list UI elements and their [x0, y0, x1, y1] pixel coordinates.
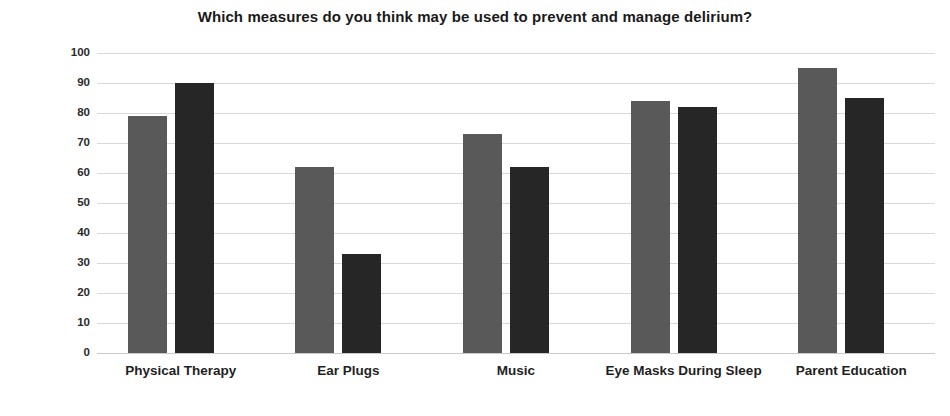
- y-tick-label-70: 70: [40, 137, 90, 149]
- bar-series-a-4: [798, 68, 837, 353]
- bar-group: [600, 53, 768, 353]
- category-label: Parent Education: [767, 362, 935, 379]
- y-tick-label-40: 40: [40, 227, 90, 239]
- category-label: Eye Masks During Sleep: [600, 362, 768, 379]
- bar-group: [767, 53, 935, 353]
- bar-group: [432, 53, 600, 353]
- y-tick-label-60: 60: [40, 167, 90, 179]
- category-label: Ear Plugs: [265, 362, 433, 379]
- y-axis: 1009080706050403020100: [40, 53, 90, 353]
- y-tick-label-100: 100: [40, 47, 90, 59]
- y-tick-label-90: 90: [40, 77, 90, 89]
- bar-series-b-4: [845, 98, 884, 353]
- gridline-0: [97, 353, 935, 354]
- bar-series-a-1: [295, 167, 334, 353]
- y-tick-label-10: 10: [40, 317, 90, 329]
- bar-chart: Which measures do you think may be used …: [0, 0, 950, 416]
- bar-series-b-0: [175, 83, 214, 353]
- bar-series-b-3: [678, 107, 717, 353]
- plot-area: [97, 53, 935, 353]
- y-tick-label-0: 0: [40, 347, 90, 359]
- bar-group: [97, 53, 265, 353]
- bar-series-a-3: [631, 101, 670, 353]
- bar-group: [265, 53, 433, 353]
- bar-series-b-1: [342, 254, 381, 353]
- category-label: Music: [432, 362, 600, 379]
- chart-title: Which measures do you think may be used …: [0, 8, 950, 25]
- y-tick-label-30: 30: [40, 257, 90, 269]
- y-tick-label-20: 20: [40, 287, 90, 299]
- bar-series-b-2: [510, 167, 549, 353]
- bar-series-a-0: [128, 116, 167, 353]
- y-tick-label-50: 50: [40, 197, 90, 209]
- bar-series-a-2: [463, 134, 502, 353]
- category-label: Physical Therapy: [97, 362, 265, 379]
- y-tick-label-80: 80: [40, 107, 90, 119]
- x-axis: Physical TherapyEar PlugsMusicEye Masks …: [97, 362, 935, 416]
